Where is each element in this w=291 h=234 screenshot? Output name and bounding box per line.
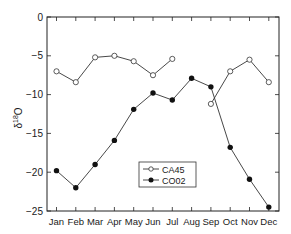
x-tick-label-jan: Jan [49, 216, 64, 227]
x-tick-label-oct: Oct [223, 216, 238, 227]
legend-label-co02: CO02 [162, 176, 186, 186]
y-label-superscript: 18 [12, 115, 19, 123]
data-point [170, 56, 175, 61]
data-point [73, 80, 78, 85]
open-circle-marker-icon [149, 167, 153, 171]
y-tick-label: −20 [26, 167, 43, 178]
x-tick-label-feb: Feb [68, 216, 84, 227]
data-point [208, 84, 213, 89]
data-point [189, 76, 194, 81]
y-tick-label: −25 [26, 206, 43, 217]
data-point [247, 57, 252, 62]
data-point [93, 55, 98, 60]
series-line [57, 56, 173, 82]
legend-label-ca45: CA45 [162, 165, 185, 175]
data-point [54, 69, 59, 74]
series-co02 [54, 76, 272, 210]
x-axis-ticks: JanFebMarAprMayJunJulAugSepOctNovDec [49, 17, 278, 227]
filled-circle-marker-icon [149, 178, 154, 183]
y-axis-label: δ18O [12, 107, 24, 128]
y-tick-label: −10 [26, 89, 43, 100]
x-tick-label-apr: Apr [107, 216, 122, 227]
x-tick-label-jun: Jun [145, 216, 160, 227]
x-tick-label-aug: Aug [183, 216, 200, 227]
x-tick-label-may: May [125, 216, 143, 227]
data-point [150, 73, 155, 78]
data-point [228, 145, 233, 150]
y-label-o: O [13, 107, 24, 115]
legend: CA45 CO02 [139, 162, 196, 187]
data-point [131, 107, 136, 112]
x-tick-label-mar: Mar [87, 216, 103, 227]
data-point [73, 185, 78, 190]
data-point [266, 204, 271, 209]
data-point [208, 101, 213, 106]
data-point [92, 162, 97, 167]
data-point [150, 90, 155, 95]
x-tick-label-nov: Nov [241, 216, 258, 227]
x-tick-label-sep: Sep [202, 216, 219, 227]
series-ca45 [54, 53, 272, 106]
data-point [112, 53, 117, 58]
x-tick-label-dec: Dec [260, 216, 277, 227]
line-chart: 0−5−10−15−20−25 JanFebMarAprMayJunJulAug… [0, 0, 291, 234]
y-tick-label: −15 [26, 128, 43, 139]
data-point [112, 138, 117, 143]
series-line [211, 60, 269, 104]
chart-container: 0−5−10−15−20−25 JanFebMarAprMayJunJulAug… [0, 0, 291, 234]
series-line [57, 78, 269, 207]
data-point [131, 59, 136, 64]
data-point [266, 80, 271, 85]
y-tick-label: −5 [32, 50, 44, 61]
svg-text:δ18O: δ18O [12, 107, 24, 128]
y-tick-label: 0 [37, 12, 43, 23]
data-point [170, 97, 175, 102]
data-point [247, 176, 252, 181]
x-tick-label-jul: Jul [166, 216, 178, 227]
data-point [228, 69, 233, 74]
data-point [54, 168, 59, 173]
